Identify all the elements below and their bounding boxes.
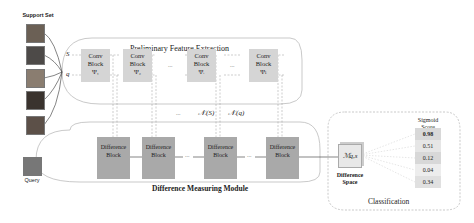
diff-ellipsis-1: ... — [185, 152, 190, 158]
difference-module-title: Difference Measuring Module — [152, 184, 248, 193]
conv-block-i: ConvBlockΨᵢ — [187, 49, 216, 82]
ns-label: 𝒩ᵢ(S) — [198, 109, 214, 117]
conv-block-l: ConvBlockΨₗ — [249, 49, 278, 82]
score-5: 0.34 — [415, 176, 441, 188]
conv-block-2: ConvBlockΨ₂ — [123, 49, 152, 82]
query-label: Query — [18, 177, 46, 183]
difference-space-label: Difference Space — [330, 172, 370, 186]
support-image-5 — [26, 116, 45, 135]
difference-block-i: DifferenceBlock — [204, 137, 237, 179]
difference-block-1: DifferenceBlock — [97, 137, 130, 179]
architecture-diagram: Support Set Query Preliminary Feature Ex… — [0, 0, 474, 223]
classification-title: Classification — [368, 197, 409, 206]
diff-ellipsis-2: ... — [247, 152, 252, 158]
difference-block-2: DifferenceBlock — [142, 137, 175, 179]
support-image-2 — [26, 46, 45, 65]
score-1: 0.98 — [415, 128, 441, 140]
difference-block-l: DifferenceBlock — [266, 137, 299, 179]
conv-ellipsis-1: ... — [168, 62, 173, 68]
support-image-3 — [26, 69, 45, 88]
conv-block-1: ConvBlockΨ₁ — [81, 49, 110, 82]
conv-ellipsis-2: ... — [230, 62, 235, 68]
support-image-1 — [26, 24, 45, 43]
score-4: 0.04 — [415, 164, 441, 176]
score-2: 0.51 — [415, 140, 441, 152]
nq-label: 𝒩ᵢ(q) — [228, 109, 244, 117]
score-3: 0.12 — [415, 152, 441, 164]
support-image-4 — [26, 91, 45, 110]
support-set-title: Support Set — [18, 12, 58, 18]
row-label-s: S — [66, 50, 70, 58]
mid-ellipsis: ... — [176, 110, 181, 116]
row-label-q: q — [66, 70, 70, 78]
difference-space-cube: ℳq,s — [338, 144, 362, 168]
query-image — [23, 157, 42, 176]
